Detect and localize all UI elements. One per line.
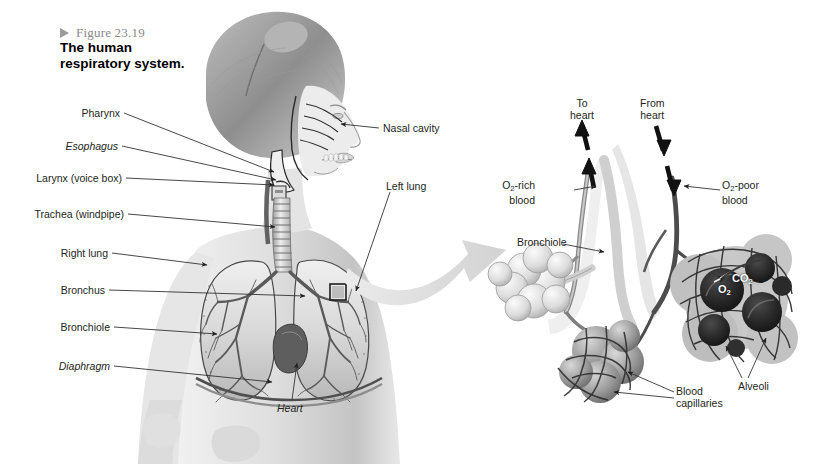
label-o2-rich-blood: O2-richblood	[502, 180, 535, 206]
label-left-lung: Left lung	[386, 181, 426, 193]
figure-number: Figure 23.19	[76, 25, 145, 41]
label-heart: Heart	[277, 403, 303, 415]
label-bronchus: Bronchus	[61, 285, 105, 297]
label-esophagus: Esophagus	[65, 141, 118, 153]
label-right-lung: Right lung	[61, 248, 108, 260]
label-larynx: Larynx (voice box)	[36, 173, 122, 185]
label-trachea: Trachea (windpipe)	[35, 209, 125, 221]
label-bronchiole: Bronchiole	[60, 322, 110, 334]
label-from-heart: Fromheart	[640, 98, 665, 121]
figure-title-line1: The human	[60, 40, 132, 55]
label-o2-poor-blood: O2-poorblood	[722, 180, 759, 206]
label-nasal-cavity: Nasal cavity	[383, 123, 440, 135]
label-alveoli: Alveoli	[738, 381, 769, 393]
figure-title-line2: respiratory system.	[60, 56, 185, 71]
co2-gas-label: CO2	[732, 272, 753, 286]
triangle-right-icon	[60, 28, 69, 38]
label-to-heart: Toheart	[570, 98, 594, 121]
o2-gas-label: O2	[718, 283, 731, 297]
label-bronchiole: Bronchiole	[517, 237, 567, 249]
label-diaphragm: Diaphragm	[59, 361, 110, 373]
label-blood-capillaries: Bloodcapillaries	[676, 386, 723, 409]
figure-title: The human respiratory system.	[60, 40, 185, 71]
label-pharynx: Pharynx	[81, 108, 120, 120]
